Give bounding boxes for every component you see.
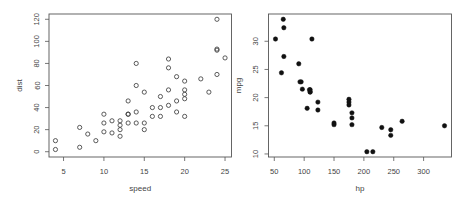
- data-point: [305, 106, 309, 110]
- data-point: [126, 112, 130, 116]
- data-point: [126, 99, 130, 103]
- plot-box: [49, 14, 232, 157]
- data-point: [174, 75, 178, 79]
- data-point: [297, 62, 301, 66]
- data-point: [365, 150, 369, 154]
- data-point: [166, 103, 170, 107]
- x-tick-label: 25: [221, 167, 229, 176]
- data-point: [158, 94, 162, 98]
- data-point: [134, 110, 138, 114]
- y-tick-label: 15: [252, 122, 261, 130]
- data-point: [371, 150, 375, 154]
- y-tick-label: 0: [33, 150, 42, 154]
- data-point: [134, 83, 138, 87]
- data-point: [142, 128, 146, 132]
- data-point: [166, 66, 170, 70]
- data-point: [442, 124, 446, 128]
- data-point: [102, 130, 106, 134]
- y-tick-label: 10: [252, 150, 261, 158]
- data-point: [282, 26, 286, 30]
- data-point: [223, 56, 227, 60]
- data-point: [166, 57, 170, 61]
- y-tick-label: 80: [33, 59, 42, 67]
- data-point: [207, 90, 211, 94]
- data-point: [166, 88, 170, 92]
- data-point: [215, 17, 219, 21]
- x-tick-label: 200: [358, 167, 371, 176]
- y-tick-label: 60: [33, 81, 42, 89]
- data-point: [174, 99, 178, 103]
- figure: 510152025020406080100120speeddist 501001…: [0, 0, 465, 202]
- y-axis-title: mpg: [234, 78, 243, 94]
- data-point: [332, 122, 336, 126]
- data-point: [199, 77, 203, 81]
- plot-box: [269, 14, 452, 157]
- y-tick-label: 100: [33, 35, 42, 48]
- data-point: [183, 92, 187, 96]
- data-point: [183, 97, 187, 101]
- y-tick-label: 20: [252, 93, 261, 101]
- y-tick-label: 30: [252, 37, 261, 45]
- data-point: [174, 110, 178, 114]
- data-point: [110, 131, 114, 135]
- y-tick-label: 20: [33, 125, 42, 133]
- data-point: [158, 105, 162, 109]
- data-point: [350, 111, 354, 115]
- data-point: [150, 105, 154, 109]
- data-point: [86, 132, 90, 136]
- x-tick-label: 150: [328, 167, 341, 176]
- y-tick-label: 120: [33, 13, 42, 26]
- y-tick-label: 25: [252, 65, 261, 73]
- data-point: [389, 128, 393, 132]
- data-point: [273, 37, 277, 41]
- y-tick-label: 40: [33, 103, 42, 111]
- data-point: [158, 114, 162, 118]
- data-point: [347, 97, 351, 101]
- data-point: [118, 128, 122, 132]
- data-point: [118, 119, 122, 123]
- data-point: [102, 121, 106, 125]
- x-tick-label: 50: [270, 167, 278, 176]
- x-tick-label: 10: [100, 167, 108, 176]
- data-point: [94, 139, 98, 143]
- x-tick-label: 250: [387, 167, 400, 176]
- data-point: [126, 121, 130, 125]
- data-point: [150, 114, 154, 118]
- x-tick-label: 300: [417, 167, 430, 176]
- x-tick-label: 20: [180, 167, 188, 176]
- data-point: [316, 108, 320, 112]
- data-point: [282, 54, 286, 58]
- data-point: [300, 87, 304, 91]
- data-point: [307, 88, 311, 92]
- data-point: [389, 133, 393, 137]
- hp-mpg-panel: 501001502002503001015202530hpmpg: [234, 14, 452, 193]
- speed-dist-panel: 510152025020406080100120speeddist: [15, 13, 232, 193]
- data-point: [118, 134, 122, 138]
- data-point: [134, 121, 138, 125]
- data-point: [78, 125, 82, 129]
- data-point: [134, 61, 138, 65]
- data-point: [78, 145, 82, 149]
- data-point: [380, 125, 384, 129]
- data-point: [350, 116, 354, 120]
- x-tick-label: 100: [298, 167, 311, 176]
- data-point: [183, 79, 187, 83]
- x-tick-label: 5: [61, 167, 65, 176]
- data-point: [400, 119, 404, 123]
- y-axis-title: dist: [15, 79, 24, 92]
- x-axis-title: speed: [129, 184, 151, 193]
- data-point: [102, 112, 106, 116]
- data-point: [183, 114, 187, 118]
- data-point: [142, 121, 146, 125]
- x-tick-label: 15: [140, 167, 148, 176]
- data-point: [183, 88, 187, 92]
- x-axis-title: hp: [356, 184, 365, 193]
- data-point: [215, 72, 219, 76]
- data-point: [110, 119, 114, 123]
- data-point: [53, 147, 57, 151]
- data-point: [281, 17, 285, 21]
- data-point: [118, 123, 122, 127]
- data-point: [310, 37, 314, 41]
- data-point: [350, 122, 354, 126]
- data-point: [142, 90, 146, 94]
